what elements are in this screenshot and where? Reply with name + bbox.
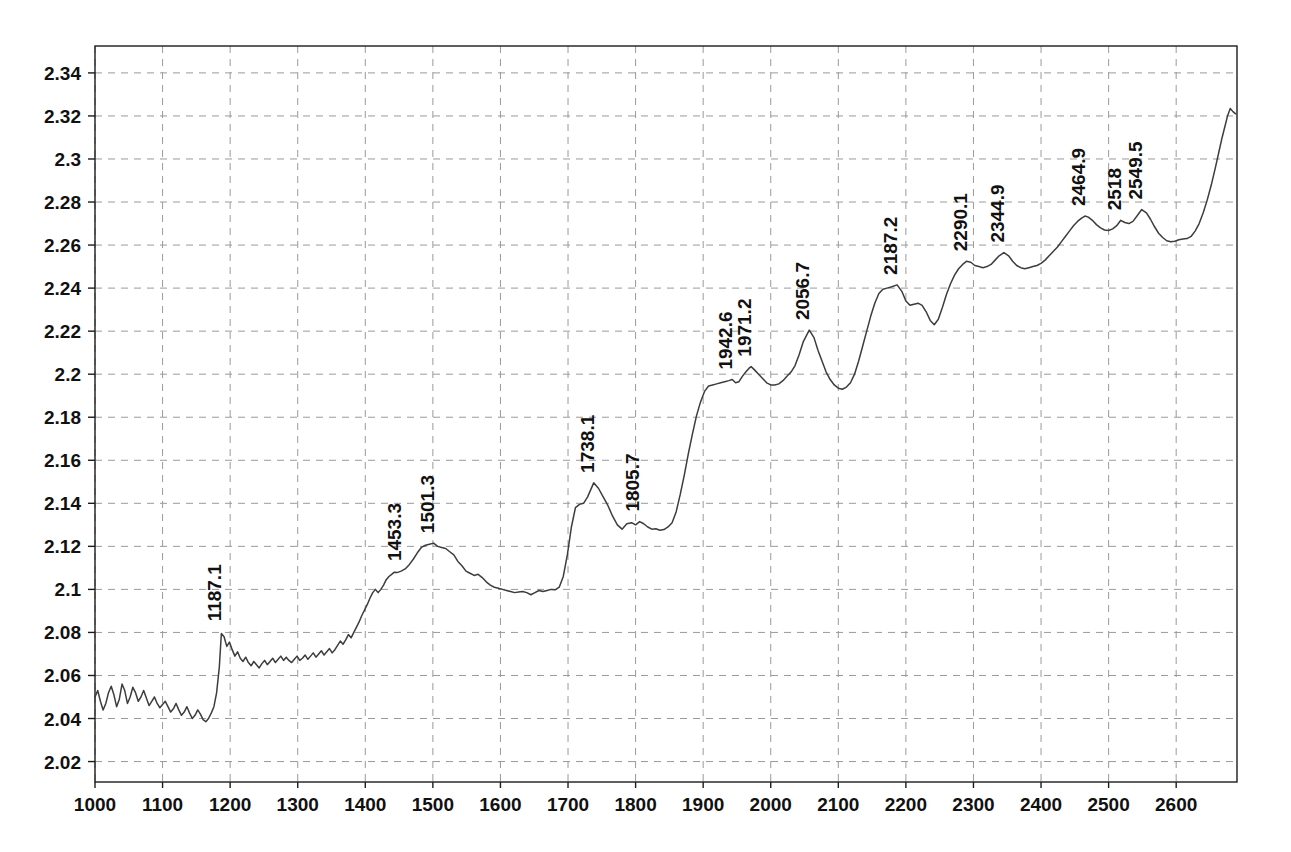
y-tick-label: 2.18: [44, 407, 81, 428]
x-tick-label: 2300: [952, 794, 994, 815]
y-tick-label: 2.24: [44, 278, 81, 299]
peak-label: 1501.3: [417, 475, 438, 533]
y-tick-label: 2.1: [55, 579, 82, 600]
x-tick-label: 1400: [344, 794, 386, 815]
x-tick-label: 1500: [412, 794, 454, 815]
y-tick-label: 2.14: [44, 493, 81, 514]
peak-label: 2056.7: [792, 262, 813, 320]
x-tick-label: 2200: [885, 794, 927, 815]
y-tick-label: 2.28: [44, 192, 81, 213]
x-tick-label: 1300: [277, 794, 319, 815]
x-tick-label: 2400: [1020, 794, 1062, 815]
y-tick-label: 2.08: [44, 622, 81, 643]
x-tick-label: 2100: [817, 794, 859, 815]
y-tick-label: 2.3: [55, 149, 81, 170]
peak-label: 1942.6: [715, 311, 736, 369]
y-tick-label: 2.12: [44, 536, 81, 557]
y-tick-label: 2.06: [44, 665, 81, 686]
y-tick-label: 2.22: [44, 321, 81, 342]
y-tick-label: 2.2: [55, 364, 81, 385]
peak-label: 1971.2: [734, 299, 755, 357]
peak-label: 2549.5: [1125, 141, 1146, 200]
peak-label: 2187.2: [880, 217, 901, 275]
y-tick-label: 2.26: [44, 235, 81, 256]
y-tick-label: 2.16: [44, 450, 81, 471]
y-tick-label: 2.02: [44, 752, 81, 773]
x-tick-label: 1700: [547, 794, 589, 815]
peak-label: 2464.9: [1068, 148, 1089, 206]
x-tick-label: 2000: [750, 794, 792, 815]
peak-label: 1738.1: [577, 414, 598, 473]
x-tick-label: 1600: [479, 794, 521, 815]
x-tick-label: 1800: [614, 794, 656, 815]
peak-label: 1453.3: [384, 503, 405, 561]
x-tick-label: 2600: [1155, 794, 1197, 815]
peak-label: 2518: [1104, 168, 1125, 210]
x-tick-label: 1000: [74, 794, 116, 815]
spectrum-chart: 1000110012001300140015001600170018001900…: [0, 0, 1291, 852]
x-tick-label: 1200: [209, 794, 251, 815]
x-tick-label: 1100: [142, 794, 183, 815]
x-axis-tick-labels: 1000110012001300140015001600170018001900…: [74, 794, 1197, 815]
peak-label: 2344.9: [987, 184, 1008, 242]
y-tick-label: 2.32: [44, 106, 81, 127]
spectrum-plot: 1000110012001300140015001600170018001900…: [0, 0, 1291, 852]
y-tick-label: 2.04: [44, 709, 81, 730]
peak-label: 1805.7: [622, 453, 643, 511]
chart-background: [0, 0, 1291, 852]
x-tick-label: 1900: [682, 794, 724, 815]
y-tick-label: 2.34: [44, 63, 81, 84]
x-tick-label: 2500: [1087, 794, 1129, 815]
peak-label: 1187.1: [204, 564, 225, 621]
peak-label: 2290.1: [950, 193, 971, 252]
